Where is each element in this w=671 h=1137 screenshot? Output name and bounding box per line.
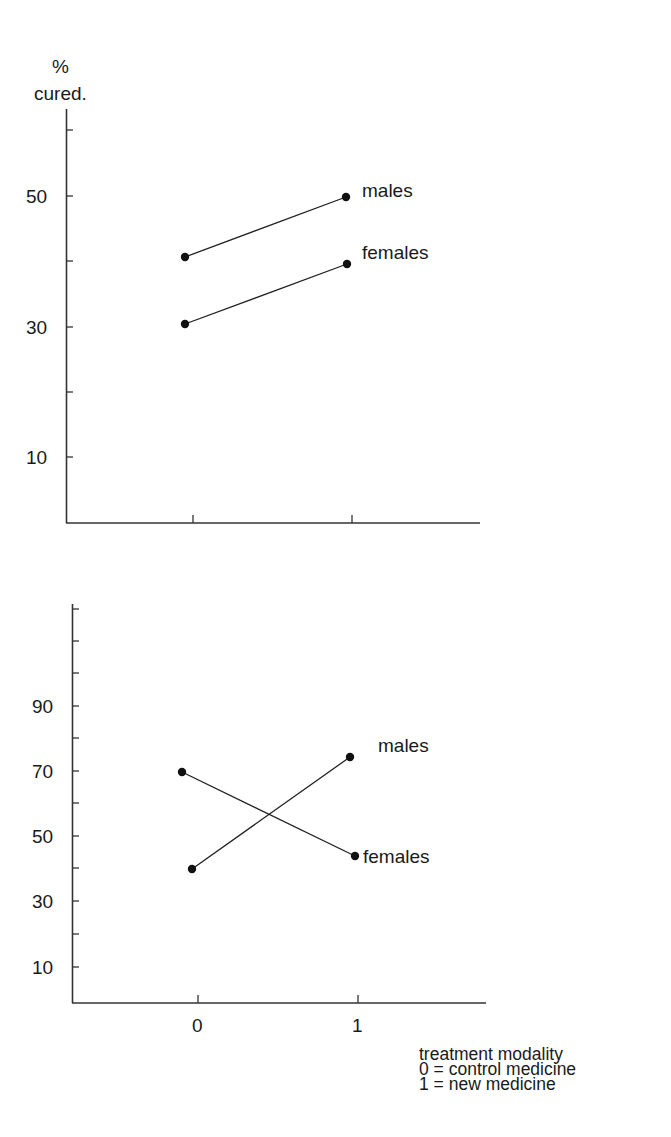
top-females-point-0 — [181, 320, 189, 328]
bottom-males-label: males — [378, 735, 429, 756]
bottom-ytick-50: 50 — [32, 826, 53, 847]
bottom-females-point-1 — [351, 852, 359, 860]
top-ylabel-percent: % — [52, 56, 69, 77]
top-ytick-30: 30 — [26, 317, 47, 338]
top-x-ticks — [193, 515, 352, 523]
bottom-females-label: females — [363, 846, 430, 867]
x-axis-caption: treatment modality 0 = control medicine … — [419, 1044, 576, 1094]
top-males-point-1 — [342, 193, 350, 201]
top-females-line — [185, 264, 347, 324]
top-ytick-50: 50 — [26, 186, 47, 207]
bottom-xtick-1: 1 — [352, 1015, 363, 1036]
top-females-label: females — [362, 242, 429, 263]
bottom-ytick-90: 90 — [32, 696, 53, 717]
bottom-x-ticks — [198, 995, 358, 1003]
bottom-xtick-0: 0 — [192, 1015, 203, 1036]
bottom-ytick-70: 70 — [32, 761, 53, 782]
top-males-line — [185, 197, 346, 257]
figure: % cured. 50 30 10 males femal — [0, 0, 671, 1137]
bottom-males-point-0 — [188, 865, 196, 873]
top-ylabel-cured: cured. — [34, 83, 87, 104]
bottom-males-line — [192, 757, 350, 869]
bottom-females-point-0 — [178, 768, 186, 776]
top-females-point-1 — [343, 260, 351, 268]
bottom-chart: 90 70 50 30 10 0 1 males females treatme… — [32, 604, 576, 1094]
top-males-label: males — [362, 180, 413, 201]
top-ytick-10: 10 — [26, 447, 47, 468]
bottom-ytick-30: 30 — [32, 891, 53, 912]
bottom-ytick-10: 10 — [32, 957, 53, 978]
caption-line-1: 1 = new medicine — [419, 1074, 556, 1094]
top-chart: % cured. 50 30 10 males femal — [26, 56, 480, 523]
top-males-point-0 — [181, 253, 189, 261]
bottom-males-point-1 — [346, 753, 354, 761]
